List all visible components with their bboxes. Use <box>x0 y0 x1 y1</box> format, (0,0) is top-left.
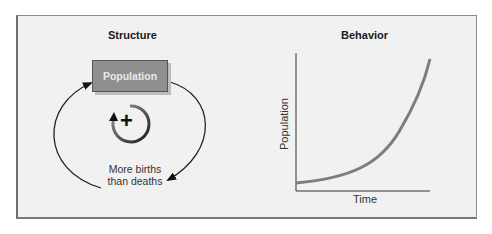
chart-axes <box>296 53 430 191</box>
y-axis-label: Population <box>278 94 290 154</box>
growth-curve <box>296 59 430 183</box>
diagram-graphics <box>0 0 492 234</box>
flow-label-line2: than deaths <box>103 175 167 187</box>
flow-label-line1: More births <box>103 163 167 175</box>
flow-label: More births than deaths <box>103 163 167 187</box>
population-stock-box: Population <box>92 60 168 92</box>
x-axis-label: Time <box>350 193 380 205</box>
loop-polarity-sign: + <box>120 110 133 132</box>
